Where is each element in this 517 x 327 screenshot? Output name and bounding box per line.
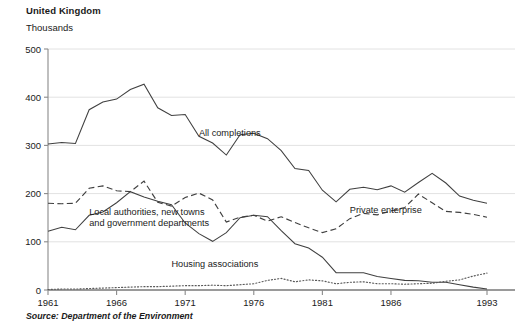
series-label-0: All completions — [199, 128, 261, 138]
y-tick-label-300: 300 — [25, 140, 41, 151]
x-axis-ticks-group: 1961196619711976198119861993 — [37, 290, 515, 308]
series-label-2: Local authorities, new townsand governme… — [89, 207, 209, 228]
series-lines-group — [48, 84, 487, 289]
y-tick-label-500: 500 — [25, 44, 41, 55]
x-tick-label-1993: 1993 — [476, 297, 497, 308]
y-tick-label-100: 100 — [25, 236, 41, 247]
x-tick-label-1961: 1961 — [37, 297, 58, 308]
chart-figure: United Kingdom Thousands Source: Departm… — [0, 0, 517, 327]
y-tick-label-0: 0 — [36, 285, 41, 296]
series-label-1: Private enterprise — [350, 205, 422, 215]
x-tick-label-1971: 1971 — [175, 297, 196, 308]
series-line-0 — [48, 84, 487, 203]
series-label-3: Housing associations — [171, 259, 258, 269]
y-axis-ticks-group: 0100200300400500 — [25, 44, 48, 296]
series-labels-group: All completionsPrivate enterpriseLocal a… — [89, 128, 422, 269]
y-tick-label-400: 400 — [25, 92, 41, 103]
y-tick-label-200: 200 — [25, 188, 41, 199]
x-tick-label-1976: 1976 — [243, 297, 264, 308]
x-tick-label-1981: 1981 — [312, 297, 333, 308]
x-tick-label-1986: 1986 — [380, 297, 401, 308]
x-tick-label-1966: 1966 — [106, 297, 127, 308]
line-chart-plot: 0100200300400500 19611966197119761981198… — [0, 0, 517, 327]
